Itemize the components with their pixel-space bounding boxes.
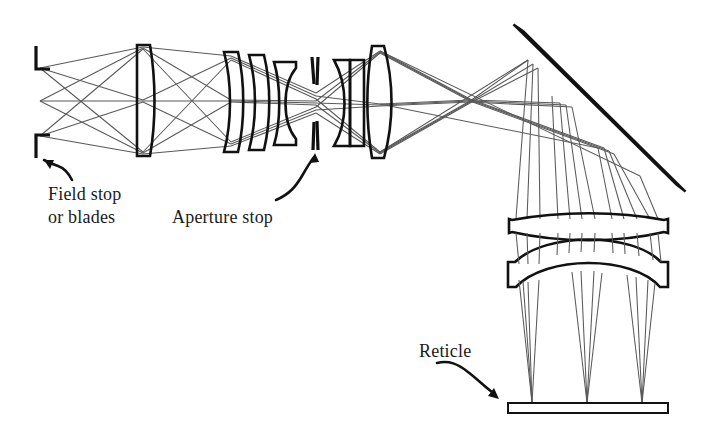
ray-group-relay-space bbox=[143, 47, 231, 154]
ray-group-object-space bbox=[40, 47, 143, 154]
label-field-stop: Field stop or blades bbox=[48, 183, 122, 229]
ray-group-to-fold-mirror bbox=[380, 51, 640, 176]
label-reticle: Reticle bbox=[419, 340, 471, 363]
ray-group-folded-vertical bbox=[516, 60, 658, 219]
eyepiece-lens-group bbox=[508, 213, 668, 287]
figure-canvas: Field stop or blades Aperture stop Retic… bbox=[0, 0, 709, 437]
reticle-plate bbox=[508, 403, 668, 413]
relay-lens-group-right bbox=[334, 46, 392, 158]
ray-group-to-reticle bbox=[519, 271, 655, 403]
label-aperture-stop: Aperture stop bbox=[172, 206, 273, 229]
